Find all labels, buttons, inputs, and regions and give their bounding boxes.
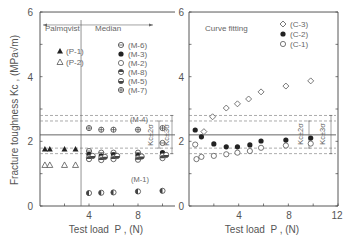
right-y-tick-2: 2: [178, 136, 184, 147]
left-x-tick-8: 8: [135, 210, 141, 221]
right-y-tick-4: 4: [178, 72, 184, 83]
legend-m2-label: (M-2): [128, 59, 147, 68]
legend-c3-label: (C-3): [290, 20, 309, 29]
left-y-axis-title: Fracture toughness Kc , (MPa√m): [9, 35, 20, 185]
right-x-tick-12: 12: [331, 210, 343, 221]
left-y-tick-4: 4: [27, 72, 33, 83]
left-x-tick-4: 4: [86, 210, 92, 221]
annotation-m1: (M-1): [131, 175, 149, 184]
left-y-tick-2: 2: [27, 136, 33, 147]
left-y-tick-0: 0: [27, 201, 33, 212]
annotation-left-2sigma: Kc±2σ: [146, 124, 155, 146]
right-y-tick-0: 0: [178, 201, 184, 212]
legend-p2-label: (P-2): [66, 58, 84, 67]
right-x-axis-title: Test load P , (N): [225, 224, 299, 235]
legend-m7-label: (M-7): [128, 86, 147, 95]
left-y-tick-6: 6: [27, 7, 33, 18]
legend-m6-label: (M-6): [128, 41, 147, 50]
annotation-m4: (M-4): [130, 115, 148, 124]
right-y-tick-6: 6: [178, 7, 184, 18]
right-panel-title: Curve fitting: [205, 24, 248, 33]
left-x-axis-title: Test load P , (N): [69, 224, 143, 235]
legend-m3-label: (M-3): [128, 50, 147, 59]
right-x-tick-8: 8: [286, 210, 292, 221]
text-layer: Fracture toughness Kc , (MPa√m) 0 2 4 6 …: [0, 0, 353, 239]
annotation-right-2sigma: Kc±2σ: [296, 123, 305, 145]
region-median-label: Median: [95, 24, 121, 33]
legend-m5-label: (M-5): [128, 77, 147, 86]
region-palmqvist-label: Palmqvist: [45, 24, 80, 33]
annotation-right-3sigma: Kc±3σ: [318, 123, 327, 145]
legend-m8-label: (M-8): [128, 68, 147, 77]
legend-p1-label: (P-1): [66, 47, 84, 56]
annotation-left-3sigma: Kc±3σ: [162, 124, 171, 146]
legend-c2-label: (C-2): [290, 30, 309, 39]
legend-c1-label: (C-1): [290, 40, 309, 49]
right-x-tick-4: 4: [236, 210, 242, 221]
